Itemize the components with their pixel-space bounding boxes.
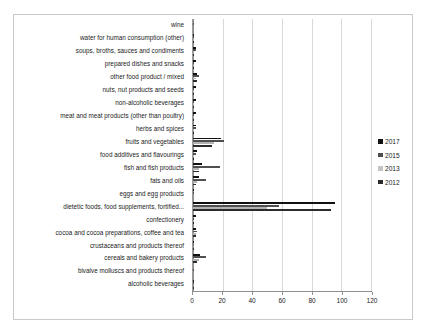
bar-group: [193, 123, 371, 136]
legend-label: 2017: [385, 138, 400, 145]
category-label: fruits and vegetables: [14, 136, 188, 149]
bar-groups: [193, 19, 371, 291]
legend-label: 2015: [385, 152, 400, 159]
legend-swatch-icon: [378, 139, 383, 144]
category-label: wine: [14, 19, 188, 32]
bar-2012: [193, 248, 194, 250]
bar-group: [193, 32, 371, 45]
bar-group: [193, 239, 371, 252]
bar-group: [193, 226, 371, 239]
bar-2012: [193, 132, 194, 134]
category-label: cereals and bakery products: [14, 252, 188, 265]
bar-2012: [193, 80, 197, 82]
bar-group: [193, 213, 371, 226]
legend-swatch-icon: [378, 153, 383, 158]
legend-item-2012[interactable]: 2012: [378, 179, 414, 186]
bar-group: [193, 200, 371, 213]
bar-group: [193, 265, 371, 278]
bar-group: [193, 45, 371, 58]
bar-group: [193, 84, 371, 97]
x-axis-tick-label: 0: [190, 297, 194, 304]
bar-2012: [193, 67, 194, 69]
bar-group: [193, 278, 371, 291]
bar-group: [193, 187, 371, 200]
legend-item-2017[interactable]: 2017: [378, 138, 414, 145]
category-label: cocoa and cocoa preparations, coffee and…: [14, 226, 188, 239]
category-label: food additives and flavourings: [14, 149, 188, 162]
category-label: alcoholic beverages: [14, 278, 188, 291]
x-axis-tick-label: 100: [337, 297, 348, 304]
bar-2012: [193, 106, 194, 108]
bar-2012: [193, 261, 197, 263]
category-label: eggs and egg products: [14, 187, 188, 200]
bar-2012: [193, 184, 196, 186]
category-label: crustaceans and products thereof: [14, 239, 188, 252]
x-axis-tick: [312, 292, 313, 295]
category-label: herbs and spices: [14, 123, 188, 136]
bar-2012: [193, 41, 194, 43]
category-label: confectionery: [14, 213, 188, 226]
chart-frame: winewater for human consumption (other)s…: [13, 14, 413, 320]
bar-2015: [193, 23, 194, 25]
category-label: other food product / mixed: [14, 71, 188, 84]
x-axis-tick: [282, 292, 283, 295]
x-axis-tick: [252, 292, 253, 295]
bar-group: [193, 136, 371, 149]
x-axis-tick: [342, 292, 343, 295]
x-axis-tick: [372, 292, 373, 295]
x-axis-tick-label: 40: [248, 297, 255, 304]
x-axis-tick-label: 80: [308, 297, 315, 304]
category-label: prepared dishes and snacks: [14, 58, 188, 71]
bar-group: [193, 97, 371, 110]
x-axis-tick-label: 60: [278, 297, 285, 304]
bar-group: [193, 110, 371, 123]
legend-label: 2012: [385, 179, 400, 186]
category-label: bivalve molluscs and products thereof: [14, 265, 188, 278]
category-label: meat and meat products (other than poult…: [14, 110, 188, 123]
legend-swatch-icon: [378, 180, 383, 185]
legend-swatch-icon: [378, 166, 383, 171]
category-axis-labels: winewater for human consumption (other)s…: [14, 19, 188, 291]
legend-item-2013[interactable]: 2013: [378, 165, 414, 172]
bar-group: [193, 252, 371, 265]
category-label: fish and fish products: [14, 161, 188, 174]
bar-2012: [193, 171, 199, 173]
bar-2012: [193, 222, 194, 224]
bar-2012: [193, 93, 194, 95]
bar-group: [193, 149, 371, 162]
category-label: fats and oils: [14, 174, 188, 187]
category-label: dietetic foods, food supplements, fortif…: [14, 200, 188, 213]
x-axis-tick: [222, 292, 223, 295]
bar-2012: [193, 158, 194, 160]
category-label: water for human consumption (other): [14, 32, 188, 45]
bar-2012: [193, 287, 194, 289]
gridline: [371, 19, 372, 291]
legend-label: 2013: [385, 165, 400, 172]
plot-area: [192, 19, 372, 291]
legend: 2017201520132012: [378, 138, 414, 186]
category-label: soups, broths, sauces and condiments: [14, 45, 188, 58]
bar-group: [193, 71, 371, 84]
bar-group: [193, 174, 371, 187]
x-axis-tick-label: 20: [218, 297, 225, 304]
category-label: nuts, nut products and seeds: [14, 84, 188, 97]
bar-group: [193, 58, 371, 71]
bar-2012: [193, 209, 331, 211]
bar-group: [193, 161, 371, 174]
x-axis-tick: [192, 292, 193, 295]
bar-2015: [193, 244, 194, 246]
bar-2012: [193, 54, 194, 56]
bar-group: [193, 19, 371, 32]
legend-item-2015[interactable]: 2015: [378, 152, 414, 159]
bar-2012: [193, 235, 196, 237]
bar-2015: [193, 269, 194, 271]
bar-2015: [193, 282, 194, 284]
bar-2012: [193, 119, 194, 121]
bar-2015: [193, 192, 194, 194]
x-axis-tick-label: 120: [367, 297, 378, 304]
category-label: non-alcoholic beverages: [14, 97, 188, 110]
x-axis-tick-labels: 020406080100120: [192, 297, 372, 309]
bar-2012: [193, 145, 212, 147]
